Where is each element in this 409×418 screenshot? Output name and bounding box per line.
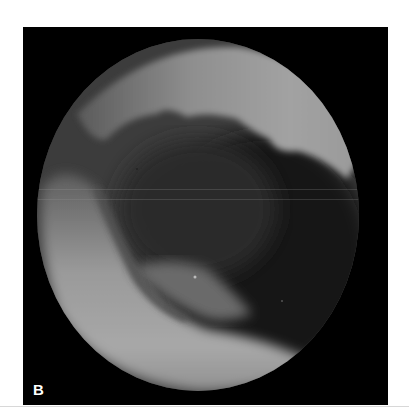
- endoscopic-field-of-view: [37, 39, 359, 391]
- scan-artifact-line: [37, 189, 359, 190]
- figure-bottom-rule: [0, 406, 409, 407]
- panel-label: B: [33, 382, 44, 397]
- endoscopy-figure-panel: B: [23, 27, 388, 405]
- scan-artifact-line: [37, 199, 359, 200]
- endoscopic-image: [37, 39, 359, 391]
